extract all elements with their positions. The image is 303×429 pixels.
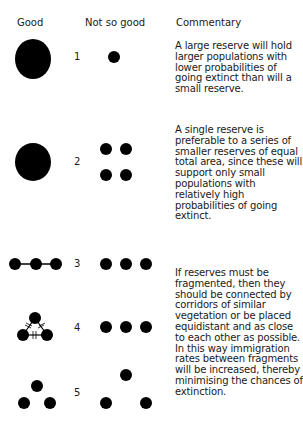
commentary-1-line: small reserve.	[175, 84, 303, 95]
commentary-3: If reserves must be fragmented, then the…	[175, 268, 303, 398]
row-2-not-so-good-four-fragments	[100, 143, 132, 181]
commentary-3-line: to each other as possible.	[175, 333, 303, 344]
commentary-2-line: preferable to a series of	[175, 136, 303, 147]
commentary-1: A large reserve will hold larger populat…	[175, 41, 303, 95]
row-3-not-so-good-unconnected-line	[100, 258, 152, 270]
commentary-3-line: extinction.	[175, 387, 303, 398]
row-1-not-so-good-small-reserve	[108, 51, 120, 63]
row-2-good-single-reserve	[15, 143, 51, 181]
commentary-2: A single reserve is preferable to a seri…	[175, 125, 303, 222]
row-4-good-corridor-triangle	[17, 312, 53, 341]
commentary-2-line: extinct.	[175, 211, 303, 222]
row-5-good-close-triangle	[18, 380, 56, 409]
row-5-not-so-good-distant-triangle	[100, 369, 152, 409]
commentary-3-line: fragmented, then they	[175, 279, 303, 290]
row-3-good-connected-line	[9, 258, 62, 270]
commentary-1-line: larger populations with	[175, 52, 303, 63]
row-4-not-so-good-unconnected-line	[100, 321, 152, 333]
commentary-2-line: relatively high	[175, 190, 303, 201]
row-1-good-large-reserve	[15, 39, 51, 79]
